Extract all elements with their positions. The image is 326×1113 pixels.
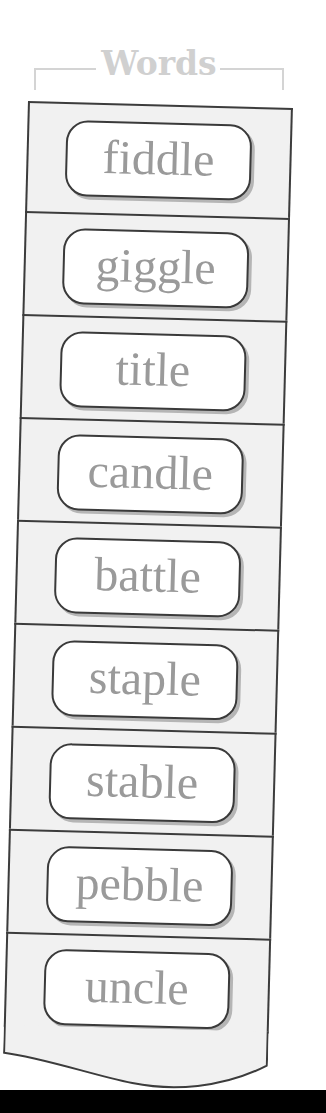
word-row: staple — [12, 623, 280, 733]
word-card-candle[interactable]: candle — [56, 434, 244, 515]
words-header: Words — [34, 44, 284, 92]
word-row: title — [20, 314, 288, 424]
bottom-black-bar — [0, 1090, 326, 1113]
word-card-giggle[interactable]: giggle — [62, 228, 250, 309]
word-row: giggle — [22, 211, 290, 321]
header-title: Words — [34, 44, 284, 84]
word-row: stable — [9, 726, 277, 836]
word-card-staple[interactable]: staple — [51, 640, 239, 721]
header-bracket-right — [220, 68, 284, 70]
word-card-title[interactable]: title — [59, 331, 247, 412]
word-row: candle — [17, 417, 285, 527]
word-label: stable — [86, 756, 199, 807]
word-card-fiddle[interactable]: fiddle — [65, 120, 253, 201]
word-card-battle[interactable]: battle — [54, 537, 242, 618]
word-card-pebble[interactable]: pebble — [46, 846, 234, 927]
word-list-panel: fiddle giggle title candle battle staple… — [2, 101, 293, 1092]
word-card-stable[interactable]: stable — [48, 743, 236, 824]
header-bracket-tick-right — [282, 68, 284, 90]
word-label: staple — [88, 653, 201, 704]
word-label: pebble — [75, 859, 204, 910]
word-card-uncle[interactable]: uncle — [43, 949, 231, 1030]
word-row: pebble — [6, 829, 274, 939]
word-row-last: uncle — [4, 932, 271, 1034]
word-label: battle — [94, 550, 202, 601]
word-row: battle — [14, 520, 282, 630]
panel-torn-bottom-edge — [2, 1025, 268, 1092]
word-row: fiddle — [25, 101, 293, 218]
word-label: giggle — [95, 241, 216, 292]
word-label: candle — [87, 447, 213, 498]
word-label: fiddle — [102, 133, 215, 184]
word-label: title — [115, 344, 191, 394]
word-label: uncle — [84, 962, 189, 1013]
